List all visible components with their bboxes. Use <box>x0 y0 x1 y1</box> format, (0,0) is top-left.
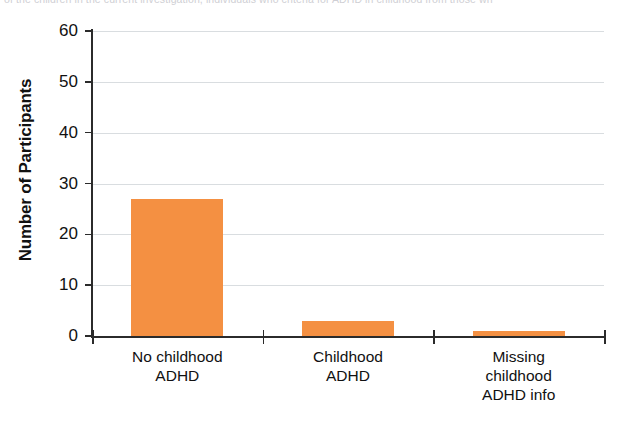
bar <box>302 321 394 336</box>
x-axis-label-line: ADHD info <box>433 385 604 404</box>
y-axis-tick <box>85 234 92 236</box>
bars-layer <box>92 31 604 336</box>
y-axis-tick-label: 0 <box>20 327 78 344</box>
x-axis-label-line: childhood <box>433 366 604 385</box>
bar <box>131 199 223 336</box>
x-axis-label-line: ADHD <box>92 366 263 385</box>
x-axis-tick <box>92 330 94 344</box>
y-axis-tick <box>85 284 92 286</box>
y-axis-tick-label: 60 <box>20 22 78 39</box>
y-axis-tick-label: 50 <box>20 73 78 90</box>
x-axis-tick <box>263 330 265 344</box>
x-axis-label: No childhoodADHD <box>92 347 263 385</box>
x-axis-label-line: No childhood <box>92 347 263 366</box>
x-axis-tick <box>604 330 606 344</box>
x-axis-label-line: Missing <box>433 347 604 366</box>
y-axis-tick-label: 40 <box>20 124 78 141</box>
bar-chart-figure: Number of Participants 0102030405060 No … <box>0 0 620 433</box>
x-axis-label: MissingchildhoodADHD info <box>433 347 604 404</box>
x-axis-line <box>91 336 605 338</box>
x-axis-label: ChildhoodADHD <box>263 347 434 385</box>
y-axis-tick <box>85 81 92 83</box>
x-axis-labels: No childhoodADHDChildhoodADHDMissingchil… <box>92 347 606 427</box>
y-axis-tick <box>85 183 92 185</box>
y-axis-tick-label: 30 <box>20 175 78 192</box>
x-axis-tick <box>433 330 435 344</box>
x-axis-label-line: Childhood <box>263 347 434 366</box>
y-axis-tick-label: 20 <box>20 225 78 242</box>
x-axis-label-line: ADHD <box>263 366 434 385</box>
y-axis-tick <box>85 132 92 134</box>
bar <box>473 331 565 336</box>
y-axis-tick <box>85 335 92 337</box>
y-axis-tick-label: 10 <box>20 276 78 293</box>
y-axis-tick <box>85 30 92 32</box>
